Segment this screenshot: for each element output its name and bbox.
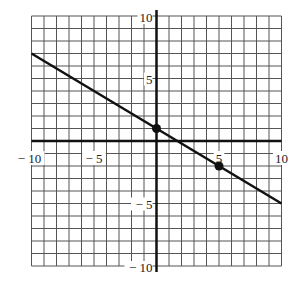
y-tick-label: 5 [146, 72, 153, 87]
coordinate-plane: − 10− 5510105− 5− 10 [0, 0, 301, 283]
data-point [152, 124, 161, 133]
data-point [215, 162, 224, 171]
y-tick-label: 10 [140, 10, 153, 25]
x-tick-label: 10 [275, 151, 288, 166]
x-tick-label: − 10 [18, 151, 42, 166]
y-tick-label: − 5 [135, 197, 152, 212]
y-tick-label: − 10 [129, 260, 153, 275]
x-tick-label: − 5 [85, 151, 102, 166]
